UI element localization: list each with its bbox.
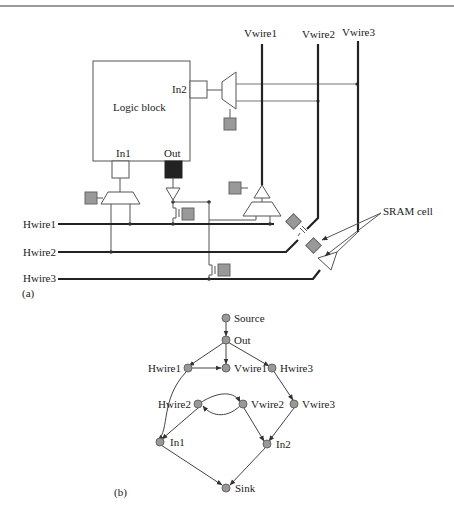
in1-mux: [101, 192, 140, 204]
sram-cell-icon: [286, 214, 302, 230]
pin-in1-label: In1: [116, 147, 131, 159]
sram-cell-icon: [85, 192, 97, 204]
vwire1-mux: [243, 202, 281, 216]
logic-block: Logic block In1 Out In2: [93, 61, 190, 161]
out-pin-box: [165, 161, 182, 178]
logic-block-label: Logic block: [113, 101, 166, 113]
node-label-source: Source: [234, 312, 265, 324]
hwire2: [58, 240, 298, 252]
node-out: [222, 336, 230, 344]
node-hwire3: [268, 364, 276, 372]
node-source: [222, 314, 230, 322]
node-vwire1: [222, 364, 230, 372]
vwire2: [307, 44, 318, 229]
sram-cell-icon: [218, 264, 230, 276]
vwire1-label: Vwire1: [244, 27, 277, 39]
node-label-in1: In1: [170, 436, 185, 448]
node-label-sink: Sink: [235, 482, 256, 494]
out-buffer: [166, 188, 180, 200]
node-label-vwire2: Vwire2: [251, 398, 284, 410]
part-a-label: (a): [22, 287, 35, 300]
in2-pin-box: [190, 81, 207, 98]
node-label-hwire3: Hwire3: [280, 362, 313, 374]
sram-cell-icon: [306, 238, 322, 254]
hwire1-label: Hwire1: [23, 218, 56, 230]
node-sink: [222, 484, 230, 492]
vwire2-label: Vwire2: [302, 28, 335, 40]
sram-cell-annotation: SRAM cell: [383, 205, 433, 217]
pin-in2-label: In2: [172, 83, 187, 95]
node-in1: [156, 438, 164, 446]
vwire1-buffer: [254, 185, 270, 198]
node-hwire2: [194, 400, 202, 408]
part-b-label: (b): [114, 486, 127, 499]
vwire3-label: Vwire3: [342, 26, 375, 38]
node-in2: [263, 440, 271, 448]
node-hwire1: [184, 364, 192, 372]
hwire2-label: Hwire2: [23, 246, 56, 258]
node-label-vwire1: Vwire1: [234, 362, 267, 374]
sram-cell-icon: [229, 182, 241, 194]
hwire3: [58, 270, 320, 279]
node-vwire3: [290, 400, 298, 408]
node-label-hwire2: Hwire2: [158, 398, 191, 410]
hwire3-label: Hwire3: [23, 272, 56, 284]
node-vwire2: [239, 400, 247, 408]
in2-mux: [222, 72, 236, 109]
node-label-hwire1: Hwire1: [148, 362, 181, 374]
node-label-vwire3: Vwire3: [302, 398, 335, 410]
node-label-in2: In2: [276, 438, 291, 450]
pin-out-label: Out: [164, 147, 181, 159]
fpga-routing-diagram: Logic block In1 Out In2 Vwire1 Vwire2 Vw…: [0, 0, 454, 522]
node-label-out: Out: [234, 334, 251, 346]
in1-pin-box: [112, 161, 129, 178]
sram-cell-icon: [224, 118, 236, 130]
sram-cell-icon: [182, 208, 194, 220]
